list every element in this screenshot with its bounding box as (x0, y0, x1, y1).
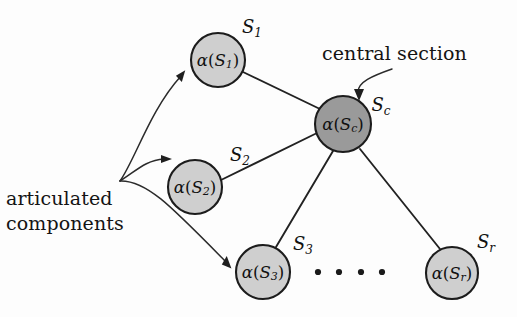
node-s2-inner-label: α(S2) (174, 178, 216, 199)
arrow-to-s2-head (161, 155, 172, 163)
ellipsis-dot (315, 269, 321, 275)
node-s1-side-label: S1 (242, 16, 262, 40)
node-sr-inner-label: α(Sr) (432, 264, 473, 285)
ellipsis-dot (358, 269, 364, 275)
articulated-components-line-1: articulated (6, 186, 124, 211)
edge-central-to-sr (360, 149, 440, 249)
node-s1[interactable]: α(S1) (191, 33, 245, 87)
ellipsis-dot (379, 269, 385, 275)
ellipsis-dots (315, 269, 385, 275)
node-s1-inner-label: α(S1) (197, 51, 239, 72)
edge-central-to-s1 (243, 72, 320, 109)
node-s3[interactable]: α(S3) (236, 245, 290, 299)
articulated-components-annotation: articulated components (6, 186, 124, 236)
node-sr-side-label: Sr (477, 231, 496, 255)
arrow-to-s3-head (222, 256, 233, 269)
node-sc-inner-label: α(Sc) (322, 115, 364, 136)
ellipsis-dot (336, 269, 342, 275)
articulated-components-diagram: α(S1) S1 α(S2) S2 α(Sc) Sc α(S3) (0, 0, 517, 317)
node-s3-inner-label: α(S3) (242, 263, 284, 284)
node-s2-side-label: S2 (230, 144, 250, 168)
articulated-components-line-2: components (6, 211, 124, 236)
node-central-sc[interactable]: α(Sc) (315, 96, 371, 152)
node-s3-side-label: S3 (293, 233, 313, 257)
node-s2[interactable]: α(S2) (168, 160, 222, 214)
node-sc-side-label: Sc (371, 94, 390, 118)
central-section-annotation: central section (322, 41, 467, 66)
arrow-to-central-section-curve (358, 69, 392, 92)
arrow-to-s1-curve (120, 76, 181, 181)
node-sr[interactable]: α(Sr) (426, 247, 478, 299)
